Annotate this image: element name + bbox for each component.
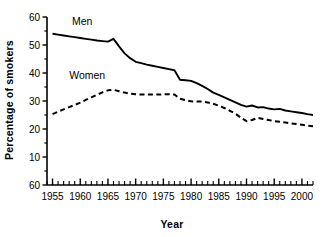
chart-canvas: 60504030201060 1955196019651970197519801… [0, 0, 331, 237]
y-axis-tick-label: 40 [29, 68, 41, 79]
x-axis-tick-label: 1990 [235, 191, 258, 202]
x-axis-tick-label: 2000 [291, 191, 314, 202]
y-axis-tick-label: 60 [29, 12, 41, 23]
y-axis-tick-label: 60 [29, 180, 41, 191]
y-axis-title: Percentage of smokers [3, 40, 15, 160]
x-axis-tick-label: 1985 [208, 191, 231, 202]
series-label-women: Women [69, 69, 105, 81]
x-axis-tick-label: 1960 [69, 191, 92, 202]
x-axis-tick-label: 1970 [125, 191, 148, 202]
x-axis-tick-label: 1975 [152, 191, 175, 202]
y-axis-tick-label: 30 [29, 96, 41, 107]
x-axis-title: Year [161, 218, 184, 230]
smoking-trend-chart: 60504030201060 1955196019651970197519801… [0, 0, 331, 237]
y-axis-tick-label: 50 [29, 40, 41, 51]
y-axis-tick-label: 10 [29, 152, 41, 163]
x-axis-tick-label: 1955 [41, 191, 64, 202]
x-axis-tick-label: 1980 [180, 191, 203, 202]
x-axis-tick-label: 1995 [263, 191, 286, 202]
y-axis-tick-label: 20 [29, 124, 41, 135]
x-axis-tick-label: 1965 [97, 191, 120, 202]
series-label-men: Men [72, 15, 93, 27]
